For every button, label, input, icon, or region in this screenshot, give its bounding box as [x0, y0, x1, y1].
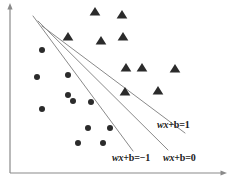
data-point-triangle	[170, 64, 181, 72]
data-point-circle	[88, 99, 94, 105]
data-point-circle	[65, 72, 71, 78]
equation-label-wx-b-eq-minus-1: wx+b=−1	[112, 153, 150, 163]
equation-label-wx-b-eq-0: wx+b=0	[163, 153, 195, 163]
data-point-circle	[75, 140, 81, 146]
data-point-triangle	[63, 32, 74, 40]
equation-label-variable: wx	[112, 152, 123, 163]
data-point-triangle	[117, 10, 128, 18]
margin-line-positive-line	[42, 26, 185, 133]
data-point-circle	[85, 125, 91, 131]
y-axis-arrowhead-icon	[7, 3, 12, 10]
data-point-triangle	[96, 36, 107, 44]
data-point-triangle	[118, 32, 129, 40]
equation-label-value: +b=1	[168, 119, 189, 130]
data-point-circle	[107, 125, 113, 131]
data-point-circle	[39, 47, 45, 53]
axes-group	[7, 3, 227, 176]
x-axis-arrowhead-icon	[221, 170, 228, 175]
equation-label-value: +b=0	[174, 152, 195, 163]
data-point-circle	[100, 140, 106, 146]
equation-label-value: +b=−1	[123, 152, 150, 163]
data-point-circle	[65, 92, 71, 98]
data-point-triangle	[137, 63, 148, 71]
data-point-circle	[70, 98, 76, 104]
equation-label-variable: wx	[163, 152, 174, 163]
equation-label-variable: wx	[157, 119, 168, 130]
margin-line-negative-line	[33, 16, 133, 151]
data-point-triangle	[121, 63, 132, 71]
svm-margin-diagram: wx+b=1wx+b=−1wx+b=0	[0, 0, 227, 181]
data-point-triangle	[90, 7, 101, 15]
data-point-triangle	[153, 86, 164, 94]
data-point-circle	[39, 106, 45, 112]
equation-label-wx-b-eq-1: wx+b=1	[157, 120, 189, 130]
data-point-circle	[34, 74, 40, 80]
